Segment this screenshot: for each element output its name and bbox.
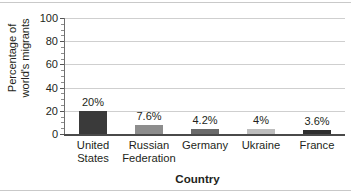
- y-tick-label: 80: [30, 36, 58, 47]
- bar-value-label: 7.6%: [136, 111, 161, 122]
- page-rule-top: [0, 2, 351, 3]
- x-tick-label-line: France: [300, 139, 335, 152]
- x-tick-label-line: Germany: [182, 139, 228, 152]
- x-tick-label-line: United: [77, 139, 109, 152]
- x-tick-label: France: [300, 139, 335, 152]
- bar-value-label: 3.6%: [304, 116, 329, 127]
- bar: [135, 125, 163, 134]
- x-tick-label: Ukraine: [242, 139, 281, 152]
- y-tick-label: 0: [30, 129, 58, 140]
- gridline: [65, 111, 345, 112]
- bar-chart-figure: Percentage of world's migrants 020406080…: [0, 0, 351, 195]
- x-tick-label-line: Russian: [122, 139, 176, 152]
- x-axis-title: Country: [0, 172, 351, 185]
- x-tick-label: RussianFederation: [122, 139, 176, 165]
- y-axis-title-line-1: Percentage of: [6, 24, 19, 92]
- y-tick-label: 60: [30, 59, 58, 70]
- gridline: [65, 18, 345, 19]
- x-axis-line: [64, 134, 345, 136]
- y-axis-tick-labels: 020406080100: [30, 12, 58, 134]
- bar-value-label: 4.2%: [192, 115, 217, 126]
- x-tick-label: UnitedStates: [77, 139, 109, 165]
- x-tick-label-line: Ukraine: [242, 139, 281, 152]
- y-tick-label: 40: [30, 82, 58, 93]
- gridline: [65, 64, 345, 65]
- x-tick-label: Germany: [182, 139, 228, 152]
- x-tick-label-line: States: [77, 152, 109, 165]
- page-rule-bottom: [0, 190, 351, 191]
- bar-value-label: 20%: [82, 97, 104, 108]
- bar: [79, 111, 107, 134]
- y-tick-label: 20: [30, 105, 58, 116]
- x-axis-tick-labels: UnitedStatesRussianFederationGermanyUkra…: [65, 139, 345, 169]
- plot-area: 20%7.6%4.2%4%3.6%: [65, 18, 345, 134]
- bar-value-label: 4%: [253, 115, 269, 126]
- x-tick-label-line: Federation: [122, 152, 176, 165]
- gridline: [65, 41, 345, 42]
- gridline: [65, 88, 345, 89]
- y-tick-label: 100: [30, 13, 58, 24]
